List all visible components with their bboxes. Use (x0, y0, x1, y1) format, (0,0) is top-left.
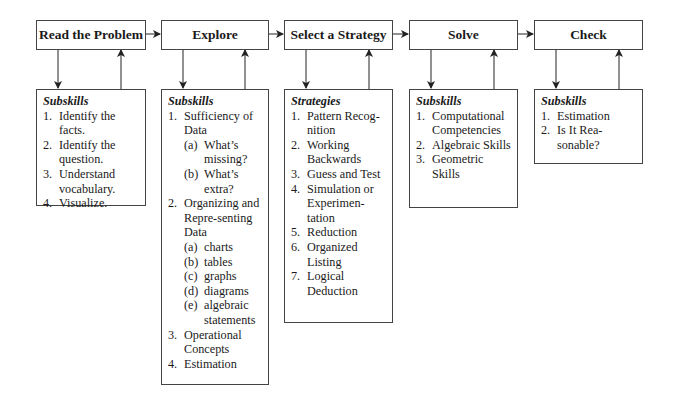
item-text: Simulation or Experimen-tation (307, 182, 386, 226)
item-number: 2. (541, 123, 557, 152)
detail-select-a-strategy: Strategies 1.Pattern Recog-nition 2.Work… (284, 89, 393, 323)
stage-read-the-problem: Read the Problem (36, 20, 146, 50)
list-item: 6.Organized Listing (291, 240, 386, 269)
item-number: 1. (43, 109, 59, 138)
item-number: 4. (168, 357, 184, 372)
item-number: 3. (416, 152, 432, 181)
sub-label: (b) (184, 167, 203, 196)
detail-heading: Strategies (291, 94, 386, 109)
list-item: 1.Identify the facts. (43, 109, 139, 138)
detail-explore: Subskills 1. Sufficiency of Data (a)What… (161, 89, 269, 385)
item-text: Visualize. (59, 196, 139, 211)
stage-select-a-strategy: Select a Strategy (284, 20, 393, 50)
sub-item: (b)What’s extra? (184, 167, 262, 196)
item-text: Guess and Test (307, 167, 386, 182)
sub-label: (e) (184, 298, 203, 327)
sub-item: (c)graphs (184, 269, 262, 284)
list-item: 3.Understand vocabulary. (43, 167, 139, 196)
sub-item: (a)What’s missing? (184, 138, 262, 167)
list-item: 2.Working Backwards (291, 138, 386, 167)
list-item: 3.Guess and Test (291, 167, 386, 182)
detail-solve: Subskills 1.Computational Competencies 2… (409, 89, 518, 208)
sub-text: algebraic statements (203, 298, 262, 327)
list-item: 5.Reduction (291, 225, 386, 240)
list-item: 3.Operational Concepts (168, 328, 262, 357)
list-item: 3.Geometric Skills (416, 152, 511, 181)
detail-read-the-problem: Subskills 1.Identify the facts. 2.Identi… (36, 89, 146, 206)
item-number: 2. (291, 138, 307, 167)
item-text: Reduction (307, 225, 386, 240)
sub-item: (b)tables (184, 255, 262, 270)
detail-heading: Subskills (541, 94, 636, 109)
sub-item: (a)charts (184, 240, 262, 255)
list-item: 4.Visualize. (43, 196, 139, 211)
item-number: 1. (416, 109, 432, 138)
stage-solve: Solve (409, 20, 518, 50)
sub-text: What’s missing? (203, 138, 262, 167)
sub-label: (d) (184, 284, 203, 299)
item-number: 7. (291, 269, 307, 298)
list-item: 4.Simulation or Experimen-tation (291, 182, 386, 226)
item-text: Understand vocabulary. (59, 167, 139, 196)
list-item: 7.Logical Deduction (291, 269, 386, 298)
sub-item: (d)diagrams (184, 284, 262, 299)
item-number: 3. (291, 167, 307, 182)
sub-text: graphs (203, 269, 262, 284)
item-number: 6. (291, 240, 307, 269)
sub-text: What’s extra? (203, 167, 262, 196)
sub-text: charts (203, 240, 262, 255)
item-text: Logical Deduction (307, 269, 386, 298)
list-item: 1. Sufficiency of Data (a)What’s missing… (168, 109, 262, 197)
item-text: Computational Competencies (432, 109, 511, 138)
detail-check: Subskills 1.Estimation 2.Is It Rea-sonab… (534, 89, 643, 164)
item-number: 3. (43, 167, 59, 196)
item-text: Estimation (557, 109, 636, 124)
item-number: 5. (291, 225, 307, 240)
stage-explore: Explore (161, 20, 269, 50)
item-text: Identify the question. (59, 138, 139, 167)
detail-heading: Subskills (168, 94, 262, 109)
item-text: Organized Listing (307, 240, 386, 269)
sub-label: (a) (184, 138, 203, 167)
stage-check: Check (534, 20, 643, 50)
item-number: 2. (43, 138, 59, 167)
list-item: 2.Identify the question. (43, 138, 139, 167)
item-text: Operational Concepts (184, 328, 262, 357)
sub-label: (a) (184, 240, 203, 255)
item-number: 1. (291, 109, 307, 138)
sub-text: diagrams (203, 284, 262, 299)
item-text: Algebraic Skills (432, 138, 511, 153)
detail-heading: Subskills (43, 94, 139, 109)
list-item: 2.Is It Rea-sonable? (541, 123, 636, 152)
list-item: 4.Estimation (168, 357, 262, 372)
item-text: Identify the facts. (59, 109, 139, 138)
item-text: Sufficiency of Data (184, 109, 262, 138)
list-item: 2.Algebraic Skills (416, 138, 511, 153)
detail-heading: Subskills (416, 94, 511, 109)
sub-text: tables (203, 255, 262, 270)
item-text: Geometric Skills (432, 152, 511, 181)
list-item: 1.Estimation (541, 109, 636, 124)
item-text: Working Backwards (307, 138, 386, 167)
item-number: 1. (168, 109, 184, 197)
item-number: 2. (416, 138, 432, 153)
item-text: Is It Rea-sonable? (557, 123, 636, 152)
list-item: 1.Pattern Recog-nition (291, 109, 386, 138)
item-text: Organizing and Repre-senting Data (184, 196, 262, 240)
list-item: 1.Computational Competencies (416, 109, 511, 138)
item-number: 4. (43, 196, 59, 211)
sub-item: (e)algebraic statements (184, 298, 262, 327)
item-number: 1. (541, 109, 557, 124)
item-text: Estimation (184, 357, 262, 372)
item-number: 4. (291, 182, 307, 226)
item-text: Pattern Recog-nition (307, 109, 386, 138)
list-item: 2. Organizing and Repre-senting Data (a)… (168, 196, 262, 327)
sub-label: (c) (184, 269, 203, 284)
item-number: 3. (168, 328, 184, 357)
item-number: 2. (168, 196, 184, 327)
sub-label: (b) (184, 255, 203, 270)
